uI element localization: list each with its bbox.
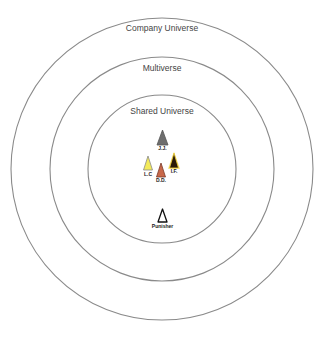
marker-label: L.C (144, 171, 152, 177)
marker-label: I.F. (171, 168, 178, 174)
marker-l-c: L.C (144, 156, 153, 177)
triangle-icon (144, 156, 153, 170)
marker-j-j: J.J. (157, 130, 168, 151)
marker-label: J.J. (158, 145, 167, 151)
triangle-icon (157, 130, 168, 145)
triangle-icon (157, 163, 166, 177)
marker-label: Punisher (152, 223, 173, 229)
marker-punisher: Punisher (152, 209, 173, 229)
marker-i-f: I.F. (168, 151, 180, 174)
marker-d-d: D.D. (156, 163, 167, 183)
marker-label: D.D. (156, 177, 167, 183)
ring-label-multiverse: Multiverse (143, 63, 182, 73)
universe-diagram: Company UniverseMultiverseShared Univers… (0, 0, 327, 337)
ring-label-company-universe: Company Universe (126, 23, 199, 33)
triangle-icon (158, 209, 167, 222)
ring-label-shared-universe: Shared Universe (130, 106, 194, 116)
